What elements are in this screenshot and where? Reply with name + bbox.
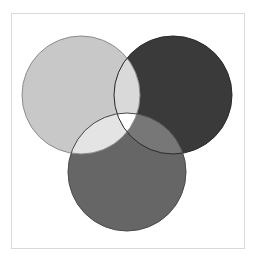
figure-canvas <box>0 0 257 261</box>
venn-diagram-plot <box>0 0 257 261</box>
venn-diagram-svg <box>0 0 257 261</box>
